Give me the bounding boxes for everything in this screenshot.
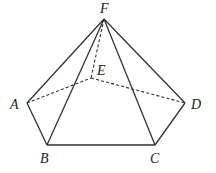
vertex-label-c: C: [150, 151, 160, 166]
vertex-label-a: A: [9, 97, 19, 112]
edge-ed: [91, 78, 185, 103]
edge-cd: [155, 103, 185, 145]
pyramid-diagram: F E A D B C: [0, 0, 216, 173]
edge-fc: [104, 19, 155, 145]
vertex-label-f: F: [99, 1, 109, 16]
edge-ab: [27, 103, 47, 145]
edge-fb: [47, 19, 104, 145]
vertex-label-d: D: [190, 97, 201, 112]
vertex-label-b: B: [40, 151, 49, 166]
edge-fd: [104, 19, 185, 103]
edge-ae: [27, 78, 91, 103]
edge-fa: [27, 19, 104, 103]
vertex-labels: F E A D B C: [9, 1, 201, 166]
solid-edges: [27, 19, 185, 145]
vertex-label-e: E: [96, 63, 106, 78]
hidden-edges: [27, 19, 185, 103]
